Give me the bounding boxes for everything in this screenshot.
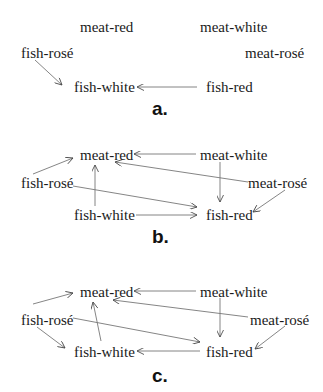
node-fish-white: fish-white: [74, 207, 135, 223]
node-meat-rose: meat-rosé: [248, 175, 307, 191]
node-fish-white: fish-white: [74, 344, 135, 360]
edge-meat-rose-to-meat-red: [115, 162, 248, 182]
caption-c: c.: [152, 365, 168, 387]
node-fish-rose: fish-rosé: [21, 45, 74, 61]
edge-meat-rose-to-fish-red: [255, 326, 285, 349]
node-fish-white: fish-white: [74, 79, 135, 95]
node-meat-red: meat-red: [80, 147, 133, 163]
caption-a: a.: [152, 98, 168, 120]
node-fish-rose: fish-rosé: [21, 312, 74, 328]
edge-fish-white-to-meat-red: [93, 302, 101, 341]
panel-a: meat-red meat-white fish-rosé meat-rosé …: [0, 0, 323, 130]
caption-b: b.: [152, 226, 169, 248]
node-meat-white: meat-white: [200, 284, 267, 300]
node-fish-red: fish-red: [206, 344, 253, 360]
node-meat-red: meat-red: [80, 19, 133, 35]
edge-meat-rose-to-meat-red: [113, 300, 248, 317]
edge-fish-rose-to-meat-red: [33, 158, 73, 174]
node-fish-red: fish-red: [206, 79, 253, 95]
node-meat-rose: meat-rosé: [245, 45, 304, 61]
node-fish-red: fish-red: [206, 207, 253, 223]
edge-fish-rose-to-fish-red: [73, 186, 197, 207]
node-meat-rose: meat-rosé: [250, 312, 309, 328]
edge-fish-rose-to-meat-red: [33, 293, 73, 304]
panel-b: meat-red meat-white fish-rosé meat-rosé …: [0, 130, 323, 260]
node-meat-white: meat-white: [200, 147, 267, 163]
edge-fish-rose-to-fish-white: [35, 60, 62, 85]
node-meat-red: meat-red: [80, 284, 133, 300]
edge-fish-rose-to-fish-red: [73, 318, 200, 342]
node-fish-rose: fish-rosé: [21, 175, 74, 191]
node-meat-white: meat-white: [200, 19, 267, 35]
panel-c: meat-red meat-white fish-rosé meat-rosé …: [0, 260, 323, 390]
edge-meat-rose-to-fish-red: [253, 190, 285, 212]
edge-fish-rose-to-fish-white: [37, 327, 65, 348]
